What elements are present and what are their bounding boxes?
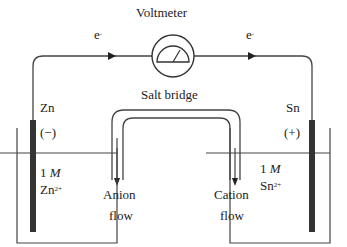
anion-flow-label-line2: flow xyxy=(109,209,133,223)
electron-label-right: e- xyxy=(246,28,254,42)
anode-ion-label: Zn2+ xyxy=(40,183,62,197)
salt-bridge-label: Salt bridge xyxy=(141,88,198,102)
electron-arrow-left-icon xyxy=(108,52,116,60)
electron-arrow-right-icon xyxy=(248,52,256,60)
cathode-sign-label: (+) xyxy=(284,126,300,140)
anode-metal-label: Zn xyxy=(40,101,54,115)
cathode-ion-label: Sn2+ xyxy=(260,179,281,193)
electron-label-left: e- xyxy=(94,28,102,42)
zinc-electrode xyxy=(30,120,36,232)
cathode-concentration-label: 1 M xyxy=(260,162,281,176)
anode-sign-label: (−) xyxy=(40,126,56,140)
salt-bridge xyxy=(112,110,240,180)
tin-electrode xyxy=(309,120,315,232)
voltmeter-label: Voltmeter xyxy=(136,6,187,20)
cation-flow-label-line2: flow xyxy=(220,209,244,223)
cation-flow-arrow-icon xyxy=(232,148,238,186)
voltmeter-icon xyxy=(152,35,194,77)
cation-flow-label-line1: Cation xyxy=(214,188,249,202)
cathode-metal-label: Sn xyxy=(286,101,300,115)
galvanic-cell-diagram xyxy=(0,0,347,247)
anode-concentration-label: 1 M xyxy=(40,166,61,180)
anion-flow-label-line1: Anion xyxy=(103,188,136,202)
